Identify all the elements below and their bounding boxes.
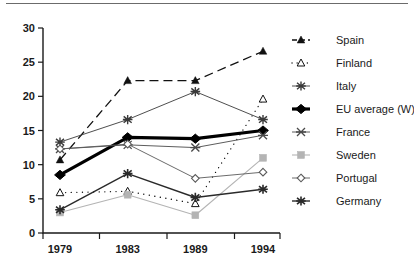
diamond xyxy=(258,126,269,135)
asterisk xyxy=(191,87,201,96)
diamond-open xyxy=(297,174,305,182)
marker-open-triangle xyxy=(56,189,64,196)
marker-filled-triangle xyxy=(259,47,267,54)
series-finland xyxy=(56,95,267,207)
legend-item-sweden[interactable]: Sweden xyxy=(292,149,376,161)
square xyxy=(260,154,267,161)
x-tick-label: 1983 xyxy=(115,243,139,255)
marker-filled-diamond xyxy=(258,126,269,135)
marker-open-triangle xyxy=(297,59,305,66)
legend-label: France xyxy=(336,126,370,138)
square xyxy=(298,152,305,159)
marker-filled-square xyxy=(192,212,199,219)
marker-open-diamond xyxy=(192,175,200,183)
legend-label: Portugal xyxy=(336,172,377,184)
y-tick-label: 5 xyxy=(29,193,35,205)
x-tick-label: 1994 xyxy=(251,243,276,255)
asterisk xyxy=(123,169,133,178)
square xyxy=(124,191,131,198)
legend-label: EU average (W) xyxy=(336,103,414,115)
legend-label: Spain xyxy=(336,34,364,46)
marker-asterisk xyxy=(296,81,306,90)
y-tick-label: 0 xyxy=(29,227,35,239)
asterisk xyxy=(258,115,268,124)
legend-label: Italy xyxy=(336,80,357,92)
tri xyxy=(259,47,267,54)
series-eu-average-w xyxy=(55,126,269,180)
x-tick-label: 1989 xyxy=(183,243,207,255)
chart-canvas: 0510152025301979198319891994SpainFinland… xyxy=(0,0,414,279)
tri-open xyxy=(297,59,305,66)
line-chart: 0510152025301979198319891994SpainFinland… xyxy=(0,0,414,279)
legend: SpainFinlandItalyEU average (W)FranceSwe… xyxy=(292,34,414,207)
y-tick-label: 30 xyxy=(23,22,35,34)
y-tick-label: 20 xyxy=(23,90,35,102)
square xyxy=(192,212,199,219)
cross xyxy=(190,144,200,152)
legend-item-spain[interactable]: Spain xyxy=(292,34,364,46)
legend-item-eu-average-w[interactable]: EU average (W) xyxy=(292,103,414,115)
tri-open xyxy=(56,189,64,196)
legend-item-italy[interactable]: Italy xyxy=(292,80,357,92)
series-sweden xyxy=(57,154,267,218)
marker-asterisk xyxy=(258,115,268,124)
marker-filled-square xyxy=(298,152,305,159)
marker-open-diamond xyxy=(297,174,305,182)
legend-item-germany[interactable]: Germany xyxy=(292,195,382,207)
marker-star-asterisk xyxy=(296,196,306,205)
marker-open-triangle xyxy=(259,95,267,102)
marker-star-asterisk xyxy=(191,193,201,202)
marker-open-diamond xyxy=(259,168,267,176)
asterisk xyxy=(296,81,306,90)
diamond xyxy=(190,134,201,143)
marker-x-cross xyxy=(190,144,200,152)
marker-filled-square xyxy=(124,191,131,198)
asterisk xyxy=(191,193,201,202)
marker-x-cross xyxy=(296,128,306,136)
tri-open xyxy=(259,95,267,102)
legend-item-france[interactable]: France xyxy=(292,126,370,138)
series-germany xyxy=(55,169,268,214)
cross xyxy=(296,128,306,136)
y-tick-label: 25 xyxy=(23,56,35,68)
diamond-open xyxy=(192,175,200,183)
x-tick-label: 1979 xyxy=(48,243,72,255)
asterisk xyxy=(258,185,268,194)
series-line xyxy=(60,99,263,204)
series-line xyxy=(60,131,263,175)
legend-label: Finland xyxy=(336,57,372,69)
legend-item-finland[interactable]: Finland xyxy=(292,57,372,69)
series-line xyxy=(60,158,263,215)
y-tick-label: 15 xyxy=(23,125,35,137)
legend-label: Sweden xyxy=(336,149,376,161)
marker-star-asterisk xyxy=(258,185,268,194)
asterisk xyxy=(123,115,133,124)
marker-star-asterisk xyxy=(55,205,65,214)
y-tick-label: 10 xyxy=(23,159,35,171)
diamond xyxy=(296,104,307,113)
asterisk xyxy=(55,205,65,214)
asterisk xyxy=(296,196,306,205)
legend-label: Germany xyxy=(336,195,382,207)
marker-asterisk xyxy=(191,87,201,96)
legend-item-portugal[interactable]: Portugal xyxy=(292,172,377,184)
series-spain xyxy=(56,47,267,163)
diamond-open xyxy=(259,168,267,176)
marker-filled-square xyxy=(260,154,267,161)
marker-star-asterisk xyxy=(123,169,133,178)
marker-asterisk xyxy=(123,115,133,124)
marker-filled-diamond xyxy=(190,134,201,143)
series-line xyxy=(60,144,263,178)
marker-filled-diamond xyxy=(296,104,307,113)
